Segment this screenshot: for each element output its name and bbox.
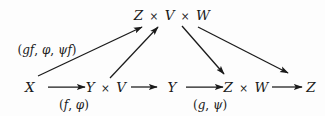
node-z: Z [306, 81, 316, 95]
node-z-times-w: Z × W [223, 81, 268, 95]
arrow-apex-to-zw [182, 26, 224, 74]
node-apex: Z × V × W [134, 9, 211, 23]
node-y-times-v: Y × V [86, 81, 127, 95]
node-x: X [25, 81, 35, 95]
commutative-diagram: Z × V × W X Y × V Y Z × W Z (gf, φ, ψf) … [0, 0, 325, 116]
edge-label-bottom-right: (g, ψ) [193, 99, 227, 111]
edge-label-bottom-left: (f, φ) [59, 99, 89, 111]
edge-label-left-diagonal: (gf, φ, ψf) [17, 44, 76, 56]
node-y: Y [167, 81, 176, 95]
arrow-apex-to-z [198, 27, 288, 73]
arrow-yv-to-apex [110, 27, 158, 78]
